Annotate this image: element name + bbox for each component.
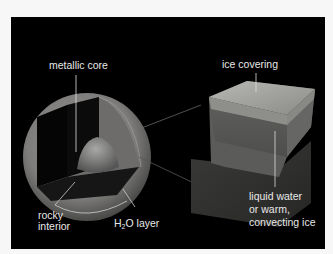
diagram-panel: metallic core rocky interior H2O layer i…	[11, 17, 325, 249]
label-text: convecting ice	[249, 216, 316, 229]
label-text: ice covering	[222, 58, 278, 70]
label-metallic-core: metallic core	[49, 60, 108, 71]
label-text: interior	[38, 221, 70, 232]
label-text: or warm,	[249, 203, 316, 216]
label-ice-covering: ice covering	[222, 59, 278, 70]
label-rocky-interior: rocky interior	[38, 210, 70, 232]
label-text: O layer	[126, 217, 160, 229]
label-text: H	[114, 217, 122, 229]
label-text: liquid water	[249, 190, 316, 203]
label-text: metallic core	[49, 59, 108, 71]
label-liquid-water: liquid water or warm, convecting ice	[249, 190, 316, 229]
label-h2o-layer: H2O layer	[114, 218, 159, 232]
connector-line-top	[139, 105, 201, 129]
